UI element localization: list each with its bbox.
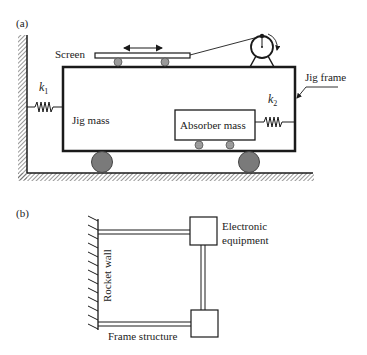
spring-k1 [27,102,63,112]
electronic-equipment-box [190,217,217,245]
screen-label: Screen [55,48,85,60]
diagram-b: (b) Rocket wall [16,207,268,342]
panel-label-a: (a) [16,17,29,30]
absorber-roller-left [195,141,203,149]
electronic-label-line1: Electronic [222,220,267,232]
wheel-right [239,152,260,173]
lower-beam [98,322,191,326]
left-wall [18,35,27,180]
upper-beam [98,230,190,234]
diagram-a: (a) Screen [16,17,346,181]
electronic-label-line2: equipment [222,234,268,246]
panel-label-b: (b) [16,207,29,220]
spring-k2 [255,117,295,127]
lower-box [191,310,218,337]
diagram-canvas: (a) Screen [0,0,367,355]
wheel-left [92,152,113,173]
jig-frame-label: Jig frame [305,71,346,83]
k2-label: k2 [268,92,277,108]
screen-roller-right [161,58,169,66]
jig-mass-label: Jig mass [72,114,110,126]
vertical-beam [201,245,205,310]
rocket-wall-label: Rocket wall [101,249,113,302]
jig-frame-leader [297,87,338,98]
frame-structure-label: Frame structure [108,330,177,342]
motor-icon [250,34,277,67]
screen-roller-left [114,58,122,66]
screen [95,53,190,66]
k1-label: k1 [39,80,48,96]
rocket-wall [88,216,98,330]
absorber-mass-label: Absorber mass [180,119,246,131]
ground [18,173,314,181]
absorber-roller-right [226,141,234,149]
